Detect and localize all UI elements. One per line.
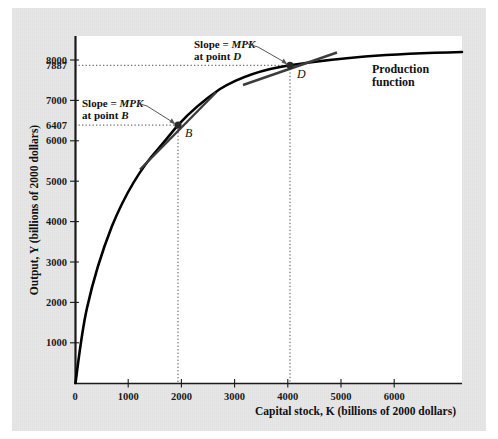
x-axis-title: Capital stock, K (billions of 2000 dolla… — [255, 405, 456, 418]
y-tick-label-7000: 7000 — [46, 95, 67, 106]
annotation-slope-d-target: D — [232, 50, 241, 62]
y-tick-label-6407: 6407 — [46, 120, 67, 131]
x-tick-label-6000: 6000 — [384, 391, 405, 402]
x-tick-label-0: 0 — [72, 391, 77, 402]
annotation-slope-b-mpk: MPK — [118, 97, 144, 109]
x-tick-label-1000: 1000 — [118, 391, 139, 402]
data-point-d[interactable] — [286, 62, 293, 69]
production-function-label-line2: function — [372, 75, 415, 89]
production-function-label-line1: Production — [372, 62, 429, 76]
annotation-slope-b-atpoint: at point — [82, 109, 121, 121]
y-tick-label-2000: 2000 — [46, 297, 67, 308]
point-label-d: D — [296, 67, 306, 81]
y-tick-label-3000: 3000 — [46, 257, 67, 268]
annotation-slope-d-line2: at point D — [194, 50, 241, 62]
y-tick-label-5000: 5000 — [46, 176, 67, 187]
annotation-slope-b-line1: Slope = MPK — [82, 97, 144, 109]
y-tick-label-4000: 4000 — [46, 216, 67, 227]
y-axis-tick-labels: 8000 7887 7000 6407 6000 5000 4000 3000 … — [46, 55, 67, 349]
y-tick-label-7887: 7887 — [46, 60, 67, 71]
y-tick-label-1000: 1000 — [46, 337, 67, 348]
x-tick-label-4000: 4000 — [277, 391, 298, 402]
annotation-slope-d-mpk: MPK — [230, 38, 256, 50]
x-tick-label-5000: 5000 — [331, 391, 352, 402]
y-axis-title: Output, Y (billions of 2000 dollars) — [28, 125, 41, 296]
data-point-b[interactable] — [174, 122, 181, 129]
production-function-chart: 8000 7887 7000 6407 6000 5000 4000 3000 … — [0, 0, 498, 439]
x-tick-label-3000: 3000 — [224, 391, 245, 402]
annotation-slope-d-text: Slope = — [194, 38, 231, 50]
annotation-slope-d-atpoint: at point — [194, 50, 233, 62]
annotation-slope-d-line1: Slope = MPK — [194, 38, 256, 50]
annotation-slope-b-line2: at point B — [82, 109, 128, 121]
y-tick-label-6000: 6000 — [46, 135, 67, 146]
x-tick-label-2000: 2000 — [171, 391, 192, 402]
point-label-b: B — [185, 126, 193, 140]
x-axis-tick-labels: 0 1000 2000 3000 4000 5000 6000 — [72, 391, 404, 402]
figure-page: 8000 7887 7000 6407 6000 5000 4000 3000 … — [0, 0, 498, 439]
annotation-slope-b-target: B — [120, 109, 128, 121]
annotation-slope-b-text: Slope = — [82, 97, 119, 109]
